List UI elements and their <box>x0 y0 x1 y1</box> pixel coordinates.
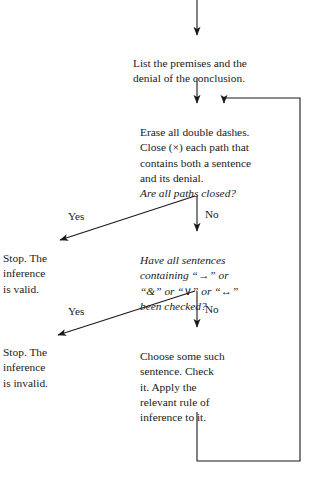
edge-label-yes-all-checked: Yes <box>68 305 84 318</box>
node-all-sentences-checked: Have all sentences containing “→” or “&”… <box>140 238 260 314</box>
node-stop-invalid: Stop. The inference is invalid. <box>3 330 85 391</box>
node-erase-double-dashes: Erase all double dashes. Close (×) each … <box>140 110 306 201</box>
node-list-premises: List the premises and the denial of the … <box>133 41 301 87</box>
node-erase-double-dashes-question: Are all paths closed? <box>140 187 236 199</box>
edge-label-yes-paths-closed: Yes <box>68 210 84 223</box>
flowchart-canvas: List the premises and the denial of the … <box>0 0 316 483</box>
node-stop-valid: Stop. The inference is valid. <box>3 236 81 297</box>
node-choose-sentence: Choose some such sentence. Check it. App… <box>140 334 260 425</box>
node-erase-double-dashes-text: Erase all double dashes. Close (×) each … <box>140 126 251 184</box>
node-choose-sentence-text: Choose some such sentence. Check it. App… <box>140 350 225 423</box>
node-all-sentences-checked-question: Have all sentences containing “→” or “&”… <box>140 254 238 312</box>
node-stop-invalid-text: Stop. The inference is invalid. <box>3 346 48 388</box>
edge-label-no-paths-closed: No <box>205 208 219 221</box>
node-stop-valid-text: Stop. The inference is valid. <box>3 252 47 294</box>
edge-label-no-all-checked: No <box>205 303 219 316</box>
node-list-premises-text: List the premises and the denial of the … <box>133 57 247 84</box>
